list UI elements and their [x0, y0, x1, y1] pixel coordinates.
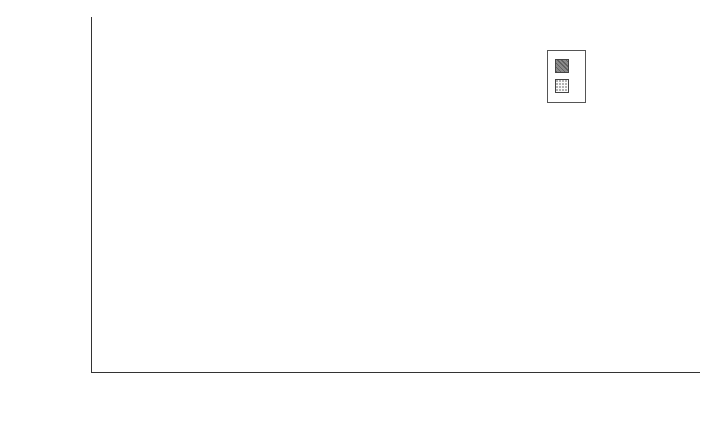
with-p-swatch-icon [555, 59, 569, 73]
legend [547, 50, 586, 103]
plot-area [92, 18, 700, 372]
biomass-bar-chart [0, 0, 711, 440]
without-p-swatch-icon [555, 79, 569, 93]
legend-item-without-p [555, 76, 575, 96]
legend-item-with-p [555, 56, 575, 76]
